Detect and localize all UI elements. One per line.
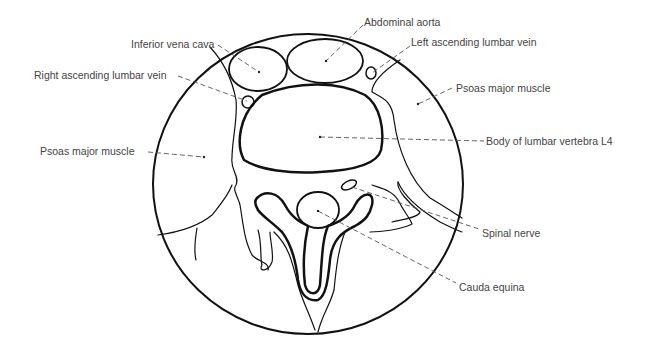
- label-inferior-vena-cava: Inferior vena cava: [131, 38, 214, 50]
- label-cauda-equina: Cauda equina: [459, 281, 524, 293]
- label-right-ascending-lumbar-vein: Right ascending lumbar vein: [34, 69, 167, 81]
- label-body-of-lumbar-vertebra-l4: Body of lumbar vertebra L4: [486, 135, 613, 147]
- anatomy-diagram: Inferior vena cava Abdominal aorta Left …: [0, 0, 653, 359]
- label-left-ascending-lumbar-vein: Left ascending lumbar vein: [411, 36, 537, 48]
- inferior-vena-cava-shape: [229, 47, 287, 91]
- leader-abdominal-aorta: [326, 25, 363, 61]
- spinal-nerve-shape: [340, 178, 358, 192]
- label-psoas-major-muscle-right: Psoas major muscle: [456, 82, 551, 94]
- left-ascending-lumbar-vein-shape: [366, 67, 376, 79]
- lamina-shape: [255, 193, 372, 300]
- leader-body-of-lumbar-vertebra: [320, 137, 484, 141]
- outer-circle: [153, 34, 463, 334]
- leader-psoas-major-muscle-right: [418, 88, 452, 104]
- vertebral-body-shape: [240, 84, 383, 172]
- cross-section-illustration: [0, 0, 653, 359]
- label-abdominal-aorta: Abdominal aorta: [364, 16, 440, 28]
- label-spinal-nerve: Spinal nerve: [482, 227, 540, 239]
- label-psoas-major-muscle-left: Psoas major muscle: [40, 145, 135, 157]
